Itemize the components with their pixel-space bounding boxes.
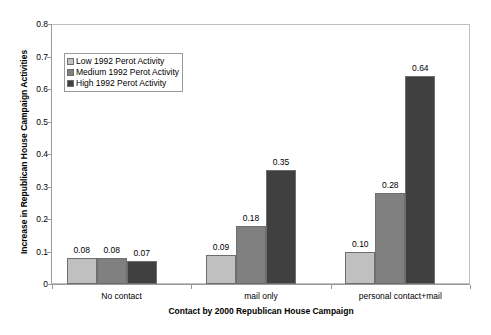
legend-label: Medium 1992 Perot Activity [76,67,179,78]
bar [375,193,405,284]
y-axis-tick-label: 0.1 [20,248,48,256]
x-axis-category-label: personal contact+mail [330,291,470,301]
bar [127,261,157,284]
y-axis-tick-label: 0.3 [20,183,48,191]
y-axis-tick-mark [47,57,51,58]
legend-item: Low 1992 Perot Activity [67,56,179,67]
y-axis-tick-mark [47,187,51,188]
x-axis-category-label: No contact [52,291,192,301]
bar-chart: Increase in Republican House Campaign Ac… [0,0,491,335]
legend: Low 1992 Perot ActivityMedium 1992 Perot… [64,53,183,92]
y-axis-tick-mark [47,24,51,25]
x-axis-category-label: mail only [191,291,331,301]
bar [67,258,97,284]
bar [266,170,296,284]
y-axis-tick-label: 0.8 [20,20,48,28]
bar [97,258,127,284]
y-axis-tick-label: 0.4 [20,150,48,158]
y-axis-tick-label: 0.2 [20,215,48,223]
x-axis-tick-mark [191,285,192,289]
legend-swatch-icon [67,80,74,87]
y-axis-tick-label: 0 [20,280,48,288]
legend-label: Low 1992 Perot Activity [76,56,164,67]
legend-item: Medium 1992 Perot Activity [67,67,179,78]
legend-swatch-icon [67,69,74,76]
y-axis-tick-mark [47,252,51,253]
y-axis-tick-mark [47,219,51,220]
y-axis-tick-label: 0.7 [20,53,48,61]
bar [405,76,435,284]
bar-value-label: 0.64 [399,64,441,73]
x-axis-title: Contact by 2000 Republican House Campaig… [52,306,470,316]
x-axis-tick-mark [470,285,471,289]
legend-label: High 1992 Perot Activity [76,78,166,89]
bar [206,255,236,284]
y-axis-tick-labels: 00.10.20.30.40.50.60.70.8 [18,0,48,335]
legend-item: High 1992 Perot Activity [67,78,179,89]
legend-swatch-icon [67,58,74,65]
y-axis-tick-mark [47,154,51,155]
bar-value-label: 0.07 [121,249,163,258]
x-axis-tick-mark [52,285,53,289]
x-axis-tick-mark [331,285,332,289]
y-axis-tick-label: 0.6 [20,85,48,93]
y-axis-tick-label: 0.5 [20,118,48,126]
y-axis-tick-mark [47,122,51,123]
bar [236,226,266,285]
bar-value-label: 0.35 [260,158,302,167]
y-axis-tick-mark [47,284,51,285]
x-axis-line [51,284,470,285]
y-axis-tick-mark [47,89,51,90]
bar [345,252,375,285]
